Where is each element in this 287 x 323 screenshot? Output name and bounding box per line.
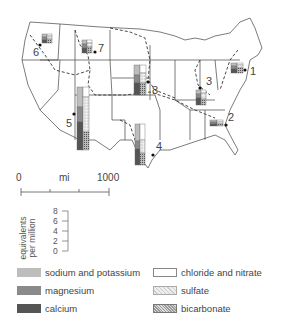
station-dot-2	[224, 123, 227, 126]
legend-item-calcium: calcium	[17, 302, 77, 314]
scale-unit: mi	[59, 172, 70, 183]
bicarbonate-swatch	[153, 304, 177, 313]
site-label-2: 2	[228, 112, 234, 123]
scale-start: 0	[16, 172, 22, 183]
station-dot-3	[198, 86, 201, 89]
scale-end: 1000	[97, 172, 119, 183]
site-label-1: 1	[250, 66, 256, 77]
tick-6: 6	[53, 217, 58, 225]
bar-site-1	[231, 63, 243, 73]
station-dot-7	[93, 50, 96, 53]
bar-site-3	[196, 90, 206, 105]
us-map	[0, 0, 287, 170]
bar-site-8	[134, 65, 146, 95]
legend-item-sulfate: sulfate	[153, 284, 209, 296]
concentration-axis-line	[60, 207, 80, 257]
legend-item-bicarbonate: bicarbonate	[153, 302, 231, 314]
sodium-potassium-swatch	[17, 268, 41, 277]
station-dot-5	[72, 112, 75, 115]
concentration-axis-label: equivalents per million	[19, 208, 37, 268]
legend-item-chloride-nitrate: chloride and nitrate	[153, 266, 262, 278]
tick-4: 4	[53, 227, 58, 235]
site-label-8: 8	[152, 85, 158, 96]
tick-8: 8	[53, 207, 58, 215]
site-label-5: 5	[66, 118, 72, 129]
chloride-nitrate-swatch	[153, 268, 177, 277]
station-dot-8	[146, 80, 149, 83]
bar-site-4	[135, 124, 145, 165]
calcium-swatch	[17, 304, 41, 313]
scale-bar: 0 mi 1000	[14, 172, 114, 202]
magnesium-swatch	[17, 286, 41, 295]
tick-2: 2	[53, 237, 58, 245]
tick-0: 0	[53, 247, 58, 255]
sulfate-swatch	[153, 286, 177, 295]
bar-site-5	[77, 87, 89, 150]
bar-site-6	[42, 34, 52, 43]
site-label-7: 7	[98, 43, 104, 54]
site-label-3: 3	[206, 76, 212, 87]
legend-item-magnesium: magnesium	[17, 284, 94, 296]
site-label-4: 4	[156, 141, 162, 152]
site-label-6: 6	[33, 47, 39, 58]
legend-item-sodium-potassium: sodium and potassium	[17, 266, 140, 278]
bar-site-7	[82, 40, 92, 53]
bar-site-2	[210, 120, 223, 126]
station-dot-4	[151, 153, 154, 156]
scale-line	[14, 184, 114, 198]
station-dot-1	[243, 68, 246, 71]
concentration-key: equivalents per million 8 6 4 2 0	[20, 207, 80, 267]
